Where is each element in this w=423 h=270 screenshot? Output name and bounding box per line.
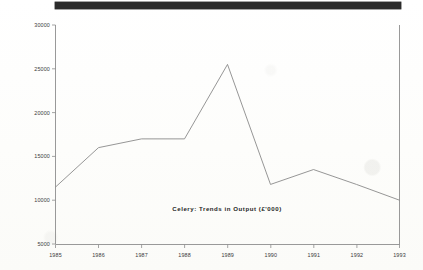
chart-canvas: 30000 25000 20000 15000 10000 5000 1985 … xyxy=(0,0,423,270)
y-tick-label: 25000 xyxy=(34,66,50,72)
y-tick-labels: 30000 25000 20000 15000 10000 5000 xyxy=(34,22,50,247)
y-tick-label: 5000 xyxy=(37,241,50,247)
y-tick-label: 20000 xyxy=(34,110,50,116)
line-chart: 30000 25000 20000 15000 10000 5000 1985 … xyxy=(0,0,423,270)
x-tick-label: 1987 xyxy=(135,252,148,258)
y-tick-label: 10000 xyxy=(34,197,50,203)
x-tick-label: 1993 xyxy=(393,252,406,258)
x-tick-marks xyxy=(56,245,400,249)
x-tick-label: 1986 xyxy=(92,252,105,258)
x-tick-label: 1988 xyxy=(178,252,191,258)
chart-title: Celery: Trends in Output (£'000) xyxy=(172,205,281,212)
x-tick-label: 1991 xyxy=(308,252,321,258)
scanned-chart-page: 30000 25000 20000 15000 10000 5000 1985 … xyxy=(0,0,423,270)
y-tick-marks xyxy=(52,25,56,244)
y-tick-label: 30000 xyxy=(34,22,50,28)
y-tick-label: 15000 xyxy=(34,153,50,159)
data-series-line xyxy=(56,64,400,200)
x-tick-label: 1990 xyxy=(265,252,278,258)
x-tick-label: 1992 xyxy=(351,252,364,258)
x-tick-labels: 1985 1986 1987 1988 1989 1990 1991 1992 … xyxy=(49,252,406,258)
x-tick-label: 1985 xyxy=(49,252,62,258)
x-tick-label: 1989 xyxy=(221,252,234,258)
